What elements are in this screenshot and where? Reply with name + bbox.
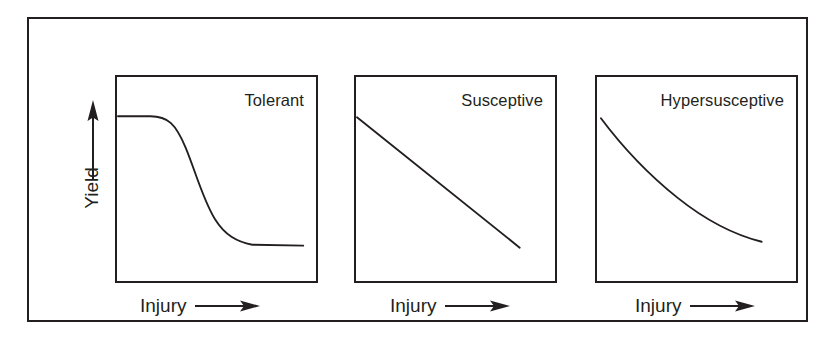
panel-label-tolerant: Tolerant bbox=[244, 91, 304, 110]
panel-hypersusceptive: Hypersusceptive bbox=[595, 75, 798, 283]
panel-label-hypersusceptive: Hypersusceptive bbox=[661, 91, 784, 110]
panel-label-susceptive: Susceptive bbox=[461, 91, 543, 110]
panel-tolerant: Tolerant bbox=[115, 75, 318, 283]
arrow-right-icon bbox=[195, 299, 261, 313]
x-axis-group-hypersusceptive: Injury bbox=[635, 291, 756, 321]
x-axis-group-tolerant: Injury bbox=[140, 291, 261, 321]
x-axis-group-susceptive: Injury bbox=[390, 291, 511, 321]
figure-root: Yield Tolerant Susceptive Hypersusceptiv… bbox=[0, 0, 836, 343]
x-axis-label-hypersusceptive: Injury bbox=[635, 295, 681, 317]
arrow-right-icon bbox=[445, 299, 511, 313]
arrow-right-icon bbox=[690, 299, 756, 313]
y-axis-label: Yield bbox=[81, 148, 103, 228]
x-axis-label-tolerant: Injury bbox=[140, 295, 186, 317]
x-axis-label-susceptive: Injury bbox=[390, 295, 436, 317]
panel-susceptive: Susceptive bbox=[354, 75, 557, 283]
figure-outer-frame: Yield Tolerant Susceptive Hypersusceptiv… bbox=[27, 17, 808, 322]
y-axis-group: Yield bbox=[69, 99, 115, 259]
